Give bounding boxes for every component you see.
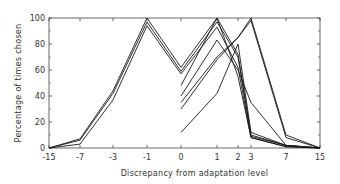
y-tick-label: 0 — [40, 144, 45, 153]
x-tick-label: 3 — [248, 153, 253, 162]
x-axis-title: Discrepancy from adaptation level — [121, 169, 269, 178]
x-tick-label: -1 — [143, 153, 151, 162]
y-axis-title: Percentage of times chosen — [14, 24, 23, 143]
y-tick-label: 100 — [30, 14, 45, 23]
x-tick-label: 2 — [235, 153, 240, 162]
x-tick-label: -3 — [109, 153, 117, 162]
x-tick-label: 1 — [214, 153, 219, 162]
x-tick-label: -7 — [76, 153, 84, 162]
x-tick-label: 15 — [315, 153, 325, 162]
line-chart: 020406080100-15-7-3-10123715Discrepancy … — [0, 0, 340, 184]
x-tick-label: -15 — [42, 153, 55, 162]
x-tick-label: 7 — [283, 153, 288, 162]
y-tick-label: 40 — [35, 92, 45, 101]
plot-area: 020406080100-15-7-3-10123715Discrepancy … — [0, 0, 340, 184]
x-tick-label: 0 — [178, 153, 183, 162]
y-tick-label: 20 — [35, 118, 45, 127]
series-line-curve-3 — [49, 26, 320, 148]
y-tick-label: 60 — [35, 66, 45, 75]
y-tick-label: 80 — [35, 40, 45, 49]
